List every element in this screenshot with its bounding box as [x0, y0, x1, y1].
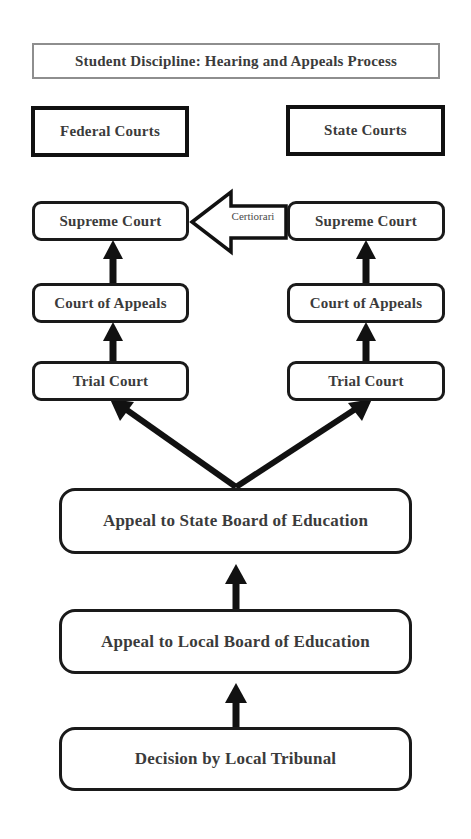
- node-federal-court-of-appeals: Court of Appeals: [32, 283, 189, 323]
- node-state-supreme-court: Supreme Court: [287, 201, 445, 241]
- diagram-title: Student Discipline: Hearing and Appeals …: [32, 43, 440, 79]
- node-federal-trial-court: Trial Court: [32, 361, 189, 401]
- group-header-state-courts: State Courts: [286, 105, 445, 156]
- certiorari-block-arrow: [192, 192, 286, 252]
- node-decision-by-local-tribunal: Decision by Local Tribunal: [59, 727, 412, 791]
- arrow-decision-to-localboard: [225, 683, 247, 727]
- certiorari-label: Certiorari: [218, 210, 288, 222]
- arrow-federal-trial-to-appeals: [103, 322, 123, 361]
- node-state-trial-court: Trial Court: [287, 361, 445, 401]
- arrow-stateboard-to-state-trial: [236, 399, 372, 487]
- node-federal-supreme-court: Supreme Court: [32, 201, 189, 241]
- node-appeal-to-state-board: Appeal to State Board of Education: [59, 488, 412, 554]
- node-appeal-to-local-board: Appeal to Local Board of Education: [59, 609, 412, 674]
- group-header-federal-courts: Federal Courts: [31, 106, 189, 157]
- arrow-state-appeals-to-supreme: [356, 240, 376, 283]
- arrow-federal-appeals-to-supreme: [103, 240, 123, 283]
- arrow-localboard-to-stateboard: [225, 564, 247, 609]
- flowchart-diagram: Student Discipline: Hearing and Appeals …: [0, 0, 471, 839]
- node-state-court-of-appeals: Court of Appeals: [287, 283, 445, 323]
- arrow-state-trial-to-appeals: [356, 322, 376, 361]
- arrow-stateboard-to-federal-trial: [110, 399, 236, 487]
